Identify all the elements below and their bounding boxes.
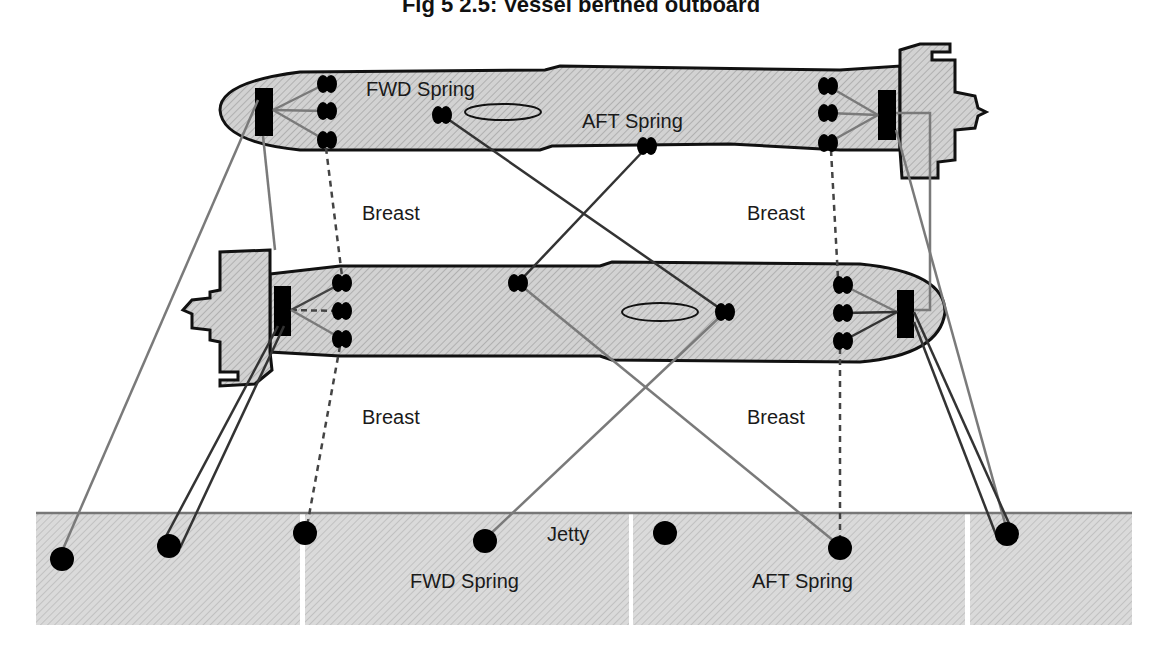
outboard-stern-winch (878, 90, 896, 140)
inboard-bow-winch (897, 290, 914, 338)
breast-upper-right (831, 150, 838, 278)
jetty-section-1 (36, 512, 300, 625)
mooring-diagram: Fig 5 2.5: Vessel berthed outboard (0, 0, 1162, 659)
inboard-stern-bitts (332, 274, 352, 348)
label-fwd-spring-jetty: FWD Spring (410, 570, 519, 592)
bollard-1 (50, 547, 74, 571)
outboard-bow-bitts (317, 75, 337, 149)
diagram-title: Fig 5 2.5: Vessel berthed outboard (402, 0, 760, 17)
label-breast-upper-right: Breast (747, 202, 805, 224)
label-jetty: Jetty (547, 523, 589, 545)
breast-lower-left (306, 346, 340, 532)
bollard-2 (157, 534, 181, 558)
outboard-stern-bitts (818, 77, 838, 152)
label-breast-lower-left: Breast (362, 406, 420, 428)
bollard-4 (473, 529, 497, 553)
inboard-bow-line-1 (914, 322, 998, 540)
inboard-stern (183, 250, 272, 386)
label-aft-spring-top: AFT Spring (582, 110, 683, 132)
inboard-bow-line-2 (914, 312, 1012, 530)
jetty-section-3 (633, 512, 965, 625)
bollard-7 (995, 522, 1019, 546)
label-fwd-spring-top: FWD Spring (366, 78, 475, 100)
label-aft-spring-jetty: AFT Spring (752, 570, 853, 592)
outboard-bow-to-inboard (263, 136, 275, 250)
bollard-5 (653, 521, 677, 545)
label-breast-upper-left: Breast (362, 202, 420, 224)
bollard-3 (293, 521, 317, 545)
inboard-vessel (183, 250, 945, 386)
inboard-bow-bitts (833, 276, 853, 350)
outboard-stern (900, 44, 986, 178)
outboard-bow-winch (255, 88, 273, 136)
label-breast-lower-right: Breast (747, 406, 805, 428)
bollard-6 (828, 536, 852, 560)
breast-upper-left (326, 148, 342, 276)
